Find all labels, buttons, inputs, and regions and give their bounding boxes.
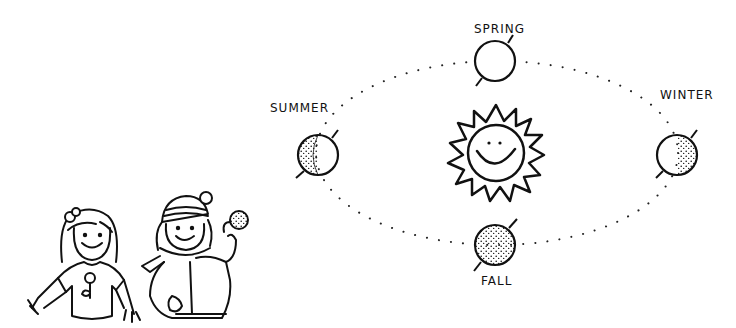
girl-summer-icon: [28, 208, 140, 322]
child-winter-icon: [142, 192, 248, 318]
seasons-diagram: SPRING SUMMER WINTER FALL: [0, 0, 736, 328]
season-label-spring: SPRING: [474, 22, 525, 36]
season-label-summer: SUMMER: [270, 101, 329, 115]
smiling-sun-icon: [448, 105, 544, 201]
winter-earth-icon: [656, 130, 697, 178]
summer-earth-icon: [296, 130, 338, 178]
fall-earth-icon: [474, 219, 517, 271]
season-label-winter: WINTER: [660, 88, 714, 102]
season-label-fall: FALL: [481, 274, 512, 288]
spring-earth-icon: [475, 35, 515, 86]
